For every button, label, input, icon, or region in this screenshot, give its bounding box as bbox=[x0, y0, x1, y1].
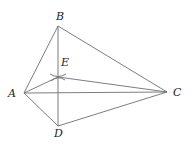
segment-BC bbox=[58, 26, 167, 92]
label-B: B bbox=[55, 10, 64, 23]
geometry-diagram: A B C D E bbox=[0, 0, 195, 152]
label-D: D bbox=[53, 127, 63, 140]
segment-AD bbox=[24, 93, 58, 126]
label-C: C bbox=[173, 86, 182, 99]
segment-EC bbox=[58, 77, 167, 92]
label-A: A bbox=[7, 87, 16, 100]
label-E: E bbox=[60, 56, 69, 69]
segment-AB bbox=[24, 26, 58, 93]
segments bbox=[24, 26, 167, 126]
segment-AC bbox=[24, 92, 167, 93]
segment-DC bbox=[58, 92, 167, 126]
